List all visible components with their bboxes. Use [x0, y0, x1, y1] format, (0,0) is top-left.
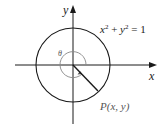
radius-line — [73, 65, 98, 91]
x-axis-arrow-icon — [149, 62, 157, 68]
x-axis-label: x — [148, 69, 155, 83]
eq-rhs: = 1 — [129, 23, 146, 35]
unit-circle-diagram: y x θ x2 + y2 = 1 P(x, y) — [0, 0, 165, 136]
y-axis-arrow-icon — [70, 5, 76, 13]
eq-plus: + — [108, 23, 120, 35]
point-p-label: P(x, y) — [99, 100, 130, 113]
theta-label: θ — [58, 49, 62, 58]
y-axis-label: y — [62, 3, 69, 17]
circle-equation: x2 + y2 = 1 — [99, 23, 146, 35]
